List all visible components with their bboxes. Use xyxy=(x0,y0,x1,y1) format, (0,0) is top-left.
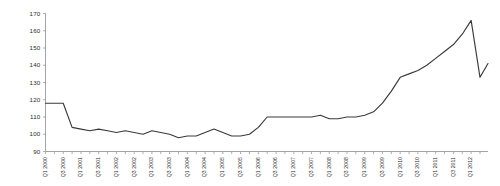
x-tick-label: Q1 2000 xyxy=(42,157,48,177)
x-tick-label: Q1 2008 xyxy=(326,157,332,177)
x-tick-label: Q1 2003 xyxy=(148,157,154,177)
x-axis-tick-labels: Q1 2000Q3 2000Q1 2001Q3 2001Q1 2002Q3 20… xyxy=(42,157,474,177)
x-tick-label: Q1 2005 xyxy=(219,157,225,177)
x-tick-label: Q3 2008 xyxy=(343,157,349,177)
x-tick-label: Q3 2005 xyxy=(237,157,243,177)
chart-plot-area: 90100110120130140150160170 Q1 2000Q3 200… xyxy=(0,0,500,186)
x-tick-label: Q3 2007 xyxy=(308,157,314,177)
y-tick-label: 170 xyxy=(30,10,41,17)
x-tick-label: Q1 2007 xyxy=(290,157,296,177)
x-tick-label: Q1 2012 xyxy=(467,157,473,177)
x-tick-label: Q3 2010 xyxy=(414,157,420,177)
x-tick-label: Q1 2010 xyxy=(397,157,403,177)
data-series xyxy=(46,20,489,137)
x-tick-label: Q1 2009 xyxy=(361,157,367,177)
y-tick-label: 140 xyxy=(30,61,41,68)
line-chart: 90100110120130140150160170 Q1 2000Q3 200… xyxy=(0,0,500,186)
x-tick-label: Q3 2002 xyxy=(131,157,137,177)
x-tick-label: Q3 2000 xyxy=(60,157,66,177)
y-tick-label: 130 xyxy=(30,79,41,86)
y-tick-label: 150 xyxy=(30,44,41,51)
series-line xyxy=(46,20,489,137)
x-tick-label: Q1 2002 xyxy=(113,157,119,177)
y-tick-label: 160 xyxy=(30,27,41,34)
y-axis: 90100110120130140150160170 xyxy=(30,10,46,155)
x-axis xyxy=(46,152,489,155)
x-tick-label: Q1 2006 xyxy=(255,157,261,177)
x-tick-label: Q3 2003 xyxy=(166,157,172,177)
x-tick-label: Q3 2009 xyxy=(379,157,385,177)
x-tick-label: Q3 2004 xyxy=(201,157,207,177)
x-tick-label: Q3 2011 xyxy=(450,157,456,177)
y-tick-label: 110 xyxy=(30,113,41,120)
x-tick-label: Q1 2004 xyxy=(184,157,190,177)
x-tick-label: Q3 2001 xyxy=(95,157,101,177)
y-tick-label: 90 xyxy=(33,148,41,155)
x-tick-label: Q3 2006 xyxy=(272,157,278,177)
y-tick-label: 120 xyxy=(30,96,41,103)
y-tick-label: 100 xyxy=(30,130,41,137)
x-tick-label: Q1 2011 xyxy=(432,157,438,177)
x-tick-label: Q1 2001 xyxy=(77,157,83,177)
